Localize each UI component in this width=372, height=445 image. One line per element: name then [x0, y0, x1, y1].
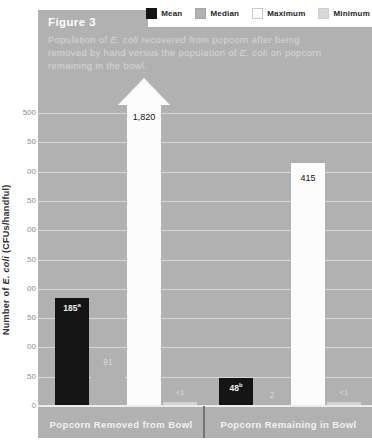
- bar-maximum-1: [291, 163, 325, 406]
- caption-line-2: removed by hand versus the population of…: [48, 46, 330, 59]
- bar-label-minimum-0: <1: [163, 388, 197, 397]
- legend-swatch-mean: [146, 8, 157, 19]
- legend-label: Minimum: [333, 9, 370, 18]
- legend: MeanMedianMaximumMinimum: [148, 0, 372, 27]
- bar-label-minimum-1: <1: [327, 388, 361, 397]
- legend-label: Median: [210, 9, 239, 18]
- caption-line-3: remaining in the bowl.: [48, 59, 330, 72]
- legend-swatch-minimum: [318, 8, 329, 19]
- legend-swatch-median: [195, 8, 206, 19]
- legend-item-minimum: Minimum: [318, 8, 370, 19]
- bar-label-mean-0: 185a: [55, 302, 89, 313]
- legend-item-median: Median: [195, 8, 239, 19]
- bar-label-maximum-1: 415: [291, 173, 325, 183]
- legend-item-mean: Mean: [146, 8, 182, 19]
- figure-3-chart: 5005000500050005000500185a48b9121,820415…: [0, 0, 372, 445]
- bar-label-maximum-0: 1,820: [127, 112, 161, 122]
- legend-item-maximum: Maximum: [252, 8, 305, 19]
- legend-swatch-maximum: [252, 8, 263, 19]
- category-label-remaining: Popcorn Remaining in Bowl: [205, 419, 372, 430]
- bar-maximum-0: [127, 105, 161, 406]
- bar-label-median-0: 91: [91, 357, 125, 367]
- gridline-500: [38, 113, 372, 114]
- figure-caption: Population of E. coli recovered from pop…: [48, 33, 330, 72]
- bar-mean-0: [55, 298, 89, 406]
- category-label-removed: Popcorn Removed from Bowl: [38, 419, 204, 430]
- y-axis-title: Number of E. coli (CFUs/handful): [1, 113, 17, 406]
- legend-label: Maximum: [267, 9, 305, 18]
- legend-label: Mean: [161, 9, 182, 18]
- figure-label: Figure 3: [48, 16, 96, 28]
- caption-line-1: Population of E. coli recovered from pop…: [48, 33, 330, 46]
- gridline-450: [38, 142, 372, 143]
- bar-label-mean-1: 48b: [219, 382, 253, 393]
- bar-label-median-1: 2: [255, 390, 289, 400]
- arrowhead-maximum-0: [118, 78, 170, 105]
- x-axis-baseline: [38, 405, 372, 407]
